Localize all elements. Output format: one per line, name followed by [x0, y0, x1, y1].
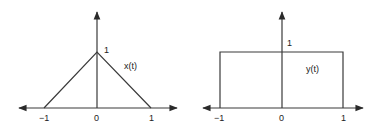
signal-label: x(t)	[124, 61, 137, 71]
tick-label-neg1: −1	[39, 113, 49, 123]
tick-label-0: 0	[279, 113, 284, 123]
plot-y: 1 y(t) −1 0 1	[203, 12, 363, 123]
signal-diagram: 1 x(t) −1 0 1 1 y(t) −1 0 1	[0, 0, 376, 127]
plot-x: 1 x(t) −1 0 1	[19, 12, 177, 123]
tick-label-0: 0	[94, 113, 99, 123]
tick-label-1: 1	[149, 113, 154, 123]
peak-label: 1	[287, 38, 292, 48]
peak-label: 1	[104, 45, 109, 55]
tick-label-1: 1	[341, 113, 346, 123]
signal-label: y(t)	[306, 64, 319, 74]
tick-label-neg1: −1	[214, 113, 224, 123]
